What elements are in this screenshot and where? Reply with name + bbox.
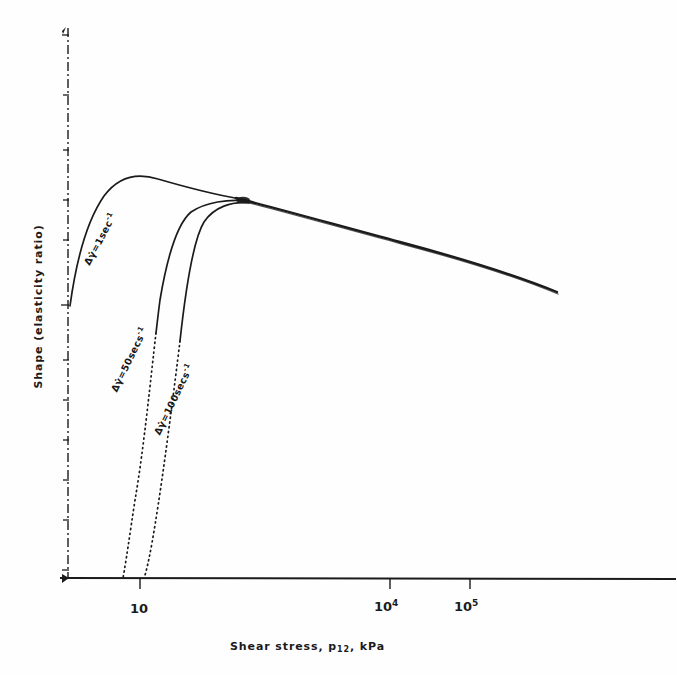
curve-merged-tail-shadow	[238, 200, 558, 294]
curve-50secs-solid	[156, 200, 247, 333]
y-axis-group	[61, 27, 69, 578]
x-tick-marks	[140, 578, 470, 589]
x-tick-label-10-base: 10	[130, 601, 148, 616]
x-tick-label-10e5: 105	[454, 598, 478, 614]
x-axis-line	[60, 578, 676, 579]
y-axis-top-mark	[62, 27, 66, 34]
x-tick-label-10e5-base: 10	[454, 599, 472, 614]
plot-svg	[0, 0, 677, 675]
x-axis-title-trail: , kPa	[350, 640, 385, 653]
x-tick-label-10e4: 104	[374, 598, 398, 614]
x-tick-label-10e5-exp: 5	[472, 598, 478, 608]
x-tick-label-10: 10	[130, 600, 148, 616]
x-axis-title-subscript: 12	[337, 645, 350, 654]
curve-convergence-knot	[236, 197, 250, 203]
x-tick-label-10e4-exp: 4	[392, 598, 398, 608]
y-axis-title: Shape (elasticity ratio)	[32, 207, 45, 407]
curve-100secs-solid	[180, 203, 249, 341]
x-axis-group	[60, 574, 676, 589]
figure-canvas: Shape (elasticity ratio) Shear stress, p…	[0, 0, 677, 675]
x-tick-label-10e4-base: 10	[374, 599, 392, 614]
curve-100secs-dotted	[144, 341, 180, 578]
x-axis-title-lead: Shear stress, p	[230, 640, 337, 653]
x-axis-title: Shear stress, p12, kPa	[230, 640, 385, 654]
